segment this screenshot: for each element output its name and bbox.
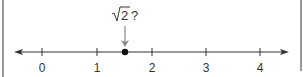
tick-label-3: 3 xyxy=(203,61,210,75)
tick-label-2: 2 xyxy=(149,61,156,75)
tick-label-4: 4 xyxy=(257,61,264,75)
question-mark: ? xyxy=(131,8,138,23)
plotted-point xyxy=(122,49,128,55)
radicand: 2 xyxy=(121,8,128,23)
sqrt-annotation: 2 ? xyxy=(112,7,138,23)
tick-label-1: 1 xyxy=(94,61,101,75)
number-line-diagram: 0 1 2 3 4 2 ? xyxy=(0,0,303,77)
tick-label-0: 0 xyxy=(39,61,46,75)
